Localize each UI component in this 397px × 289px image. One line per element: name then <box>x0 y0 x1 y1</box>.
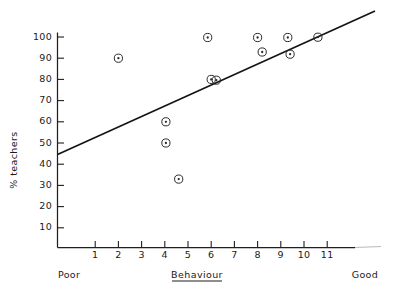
y-axis-tick-labels: 100 90 80 70 60 50 40 30 20 10 <box>33 31 52 233</box>
data-point <box>284 33 292 41</box>
x-axis-tail <box>355 247 381 248</box>
x-tick-label-9: 9 <box>278 249 284 260</box>
data-point <box>175 175 183 183</box>
x-tick-label-5: 5 <box>185 249 191 260</box>
x-tick-label-7: 7 <box>231 249 237 260</box>
y-tick-label-90: 90 <box>39 52 52 63</box>
y-tick-label-70: 70 <box>39 94 52 105</box>
poor-label: Poor <box>58 269 80 280</box>
x-tick-label-2: 2 <box>115 249 121 260</box>
trend-line <box>58 11 376 155</box>
y-tick-label-30: 30 <box>39 179 52 190</box>
data-point <box>286 50 294 58</box>
x-tick-label-4: 4 <box>162 249 168 260</box>
data-point <box>254 33 262 41</box>
y-tick-label-60: 60 <box>39 115 52 126</box>
y-axis-ticks <box>58 37 65 228</box>
data-points <box>114 33 322 183</box>
y-tick-label-100: 100 <box>33 31 52 42</box>
x-tick-label-10: 10 <box>298 249 311 260</box>
x-axis-title: Behaviour <box>171 269 223 280</box>
y-axis-title: % teachers <box>8 131 19 188</box>
good-label: Good <box>352 269 378 280</box>
scatter-plot: 100 90 80 70 60 50 40 30 20 10 <box>0 0 397 289</box>
x-tick-label-3: 3 <box>138 249 144 260</box>
x-axis-tick-labels: 1 2 3 4 5 6 7 8 9 10 11 <box>92 249 334 260</box>
x-tick-label-6: 6 <box>208 249 214 260</box>
y-tick-label-20: 20 <box>39 200 52 211</box>
y-tick-label-40: 40 <box>39 158 52 169</box>
data-point <box>258 48 266 56</box>
x-tick-label-11: 11 <box>321 249 334 260</box>
chart-canvas: 100 90 80 70 60 50 40 30 20 10 <box>0 0 397 289</box>
x-axis-ticks <box>95 241 327 248</box>
data-point <box>204 33 212 41</box>
data-point <box>162 139 170 147</box>
y-tick-label-50: 50 <box>39 137 52 148</box>
data-point <box>114 54 122 62</box>
x-tick-label-1: 1 <box>92 249 98 260</box>
y-tick-label-10: 10 <box>39 221 52 232</box>
y-tick-label-80: 80 <box>39 73 52 84</box>
axes <box>58 33 382 248</box>
x-tick-label-8: 8 <box>254 249 260 260</box>
data-point <box>162 118 170 126</box>
